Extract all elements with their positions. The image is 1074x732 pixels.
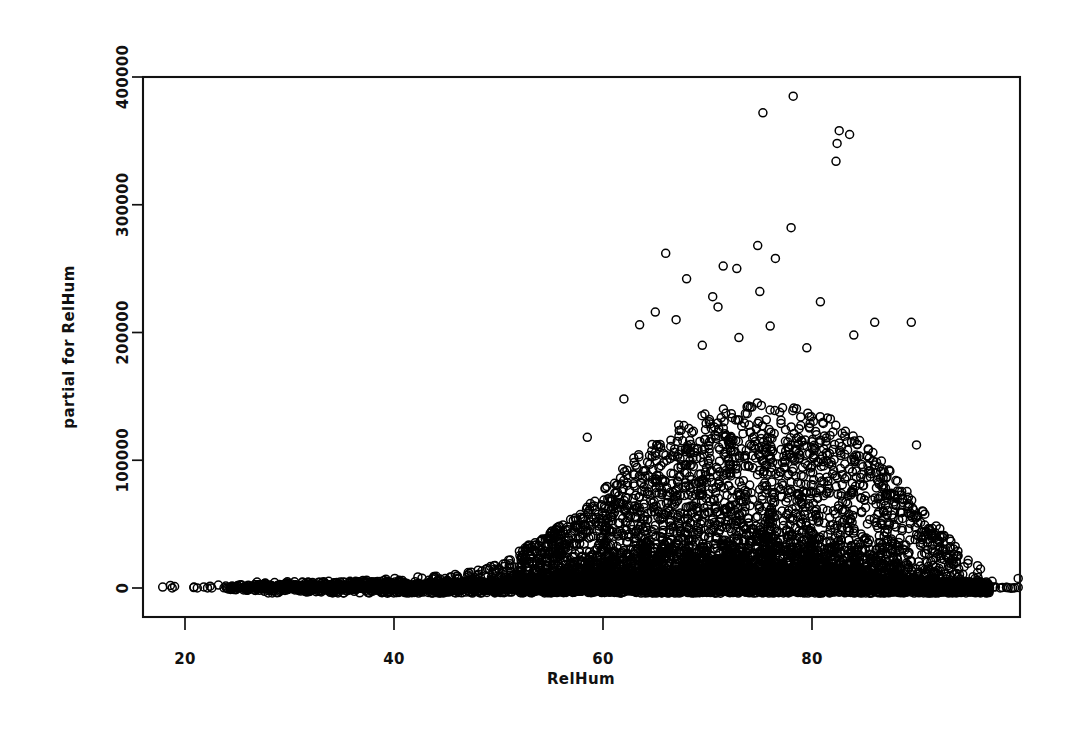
plot-canvas: 0100000200000300000400000 20406080 RelHu… (0, 0, 1074, 732)
x-tick-label: 60 (592, 650, 613, 668)
x-tick-label: 20 (174, 650, 195, 668)
y-axis-label: partial for RelHum (60, 265, 78, 428)
x-axis-label: RelHum (547, 670, 615, 688)
y-tick-label: 200000 (114, 300, 132, 364)
x-tick-label: 40 (383, 650, 404, 668)
y-tick-label: 400000 (114, 45, 132, 109)
y-tick-label: 300000 (114, 173, 132, 237)
figure-background (0, 0, 1074, 732)
scatter-plot-figure: 0100000200000300000400000 20406080 RelHu… (0, 0, 1074, 732)
y-tick-label: 100000 (114, 428, 132, 492)
y-tick-label: 0 (114, 583, 132, 594)
x-tick-label: 80 (801, 650, 822, 668)
